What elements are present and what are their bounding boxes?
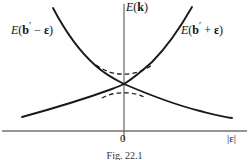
label-right-close: ): [219, 23, 223, 37]
x-axis-label: |ε|: [227, 133, 236, 144]
label-left-operator: −: [34, 23, 41, 37]
y-axis-label: E(k): [126, 1, 148, 13]
label-left-close: ): [49, 23, 53, 37]
label-right-operator: +: [204, 23, 211, 37]
figure-caption: Fig. 22.1: [0, 150, 249, 160]
label-left-prime: ′: [29, 20, 31, 31]
label-left-branch: E(b′ − ε): [11, 21, 53, 36]
figure-container: E(b′ − ε) E(b′ + ε) E(k) 0 |ε| Fig. 22.1: [0, 0, 249, 160]
origin-label: 0: [120, 133, 126, 144]
label-right-branch: E(b′ + ε): [181, 21, 223, 36]
label-right-prime: ′: [199, 20, 201, 31]
